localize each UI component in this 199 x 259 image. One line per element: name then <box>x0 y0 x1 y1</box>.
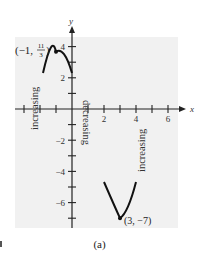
y-tick-label-2: 2 <box>61 73 66 83</box>
y-tick-label-neg2: −2 <box>55 136 65 146</box>
svg-text:11: 11 <box>38 42 45 50</box>
y-axis-label: y <box>68 16 73 26</box>
svg-text:): ) <box>46 44 50 57</box>
x-tick-label-2: 2 <box>102 114 107 124</box>
x-tick-label-4: 4 <box>134 114 139 124</box>
figure-caption: (a) <box>0 238 199 250</box>
x-tick-label-6: 6 <box>166 114 171 124</box>
annotation-increasing-left: increasing <box>29 86 40 130</box>
y-tick-label-neg6: −6 <box>55 198 65 208</box>
local-max-label: (−1, 11 3 ) <box>15 42 50 59</box>
chart-canvas: 2 4 6 4 2 −2 −4 −6 x y (−1, 11 3 ) (3, −… <box>0 0 199 259</box>
local-max-point <box>54 50 58 54</box>
local-min-label: (3, −7) <box>124 215 151 227</box>
local-min-arc <box>104 182 136 218</box>
x-axis-arrow-icon <box>179 106 186 112</box>
y-tick-label-neg4: −4 <box>55 167 65 177</box>
x-axis-label: x <box>189 104 194 114</box>
y-axis-arrow-icon <box>69 26 75 33</box>
svg-text:3: 3 <box>39 51 43 59</box>
local-min-point <box>118 216 122 220</box>
annotation-increasing-right: increasing <box>136 128 147 172</box>
svg-text:(−1,: (−1, <box>15 44 33 57</box>
annotation-decreasing: decreasing <box>81 100 92 146</box>
